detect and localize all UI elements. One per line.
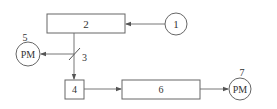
node-5-label: PM (21, 49, 36, 60)
node-5-pm-circle: PM 5 (16, 32, 40, 66)
block-diagram: 2 1 3 PM 5 4 6 PM 7 (0, 0, 277, 109)
node-7-number: 7 (240, 67, 245, 78)
node-5-number: 5 (23, 32, 28, 43)
node-6-label: 6 (159, 84, 164, 95)
node-6-box: 6 (122, 80, 200, 99)
node-2-label: 2 (83, 18, 89, 30)
node-4-label: 4 (72, 84, 77, 95)
node-7-pm-circle: PM 7 (229, 67, 251, 100)
node-1-circle: 1 (165, 13, 187, 35)
node-1-label: 1 (173, 18, 179, 30)
node-2-box: 2 (47, 14, 125, 33)
node-3-label: 3 (82, 52, 87, 63)
node-7-label: PM (233, 84, 248, 95)
node-4-box: 4 (65, 80, 84, 99)
